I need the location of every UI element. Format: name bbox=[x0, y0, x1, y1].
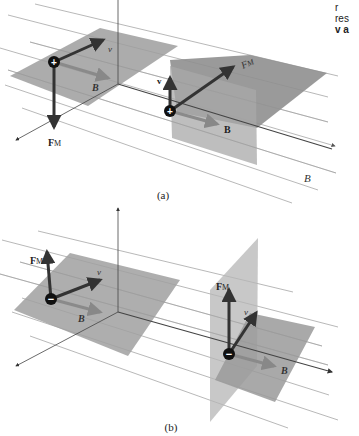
v-label-left-b: v bbox=[97, 267, 101, 277]
panel-b: − v B FM − v B FM bbox=[0, 208, 338, 428]
b-label-left-a: B bbox=[91, 82, 99, 93]
charge-sign-left-a: + bbox=[51, 57, 57, 68]
v-label-right-a: v bbox=[157, 76, 162, 86]
f-label-left-a: FM bbox=[48, 137, 61, 148]
caption-b: (b) bbox=[165, 421, 178, 434]
panel-a: + v B FM + v B FM B bbox=[0, 0, 338, 203]
charge-sign-right-b: − bbox=[226, 348, 232, 360]
v-label-right-b: v bbox=[244, 307, 248, 317]
charge-sign-right-a: + bbox=[167, 106, 173, 117]
caption-a: (a) bbox=[157, 189, 170, 202]
charge-sign-left-b: − bbox=[48, 293, 54, 305]
v-label-left-a: v bbox=[108, 44, 112, 54]
f-label-right-b: FM bbox=[216, 281, 229, 292]
b-label-right-b: B bbox=[280, 365, 288, 376]
magnetic-force-diagram: + v B FM + v B FM B (a) bbox=[0, 0, 359, 436]
b-label-left-b: B bbox=[77, 313, 85, 324]
b-field-label-a: B bbox=[304, 172, 311, 184]
f-label-left-b: FM bbox=[30, 255, 43, 266]
b-label-right-a: B bbox=[224, 124, 231, 135]
